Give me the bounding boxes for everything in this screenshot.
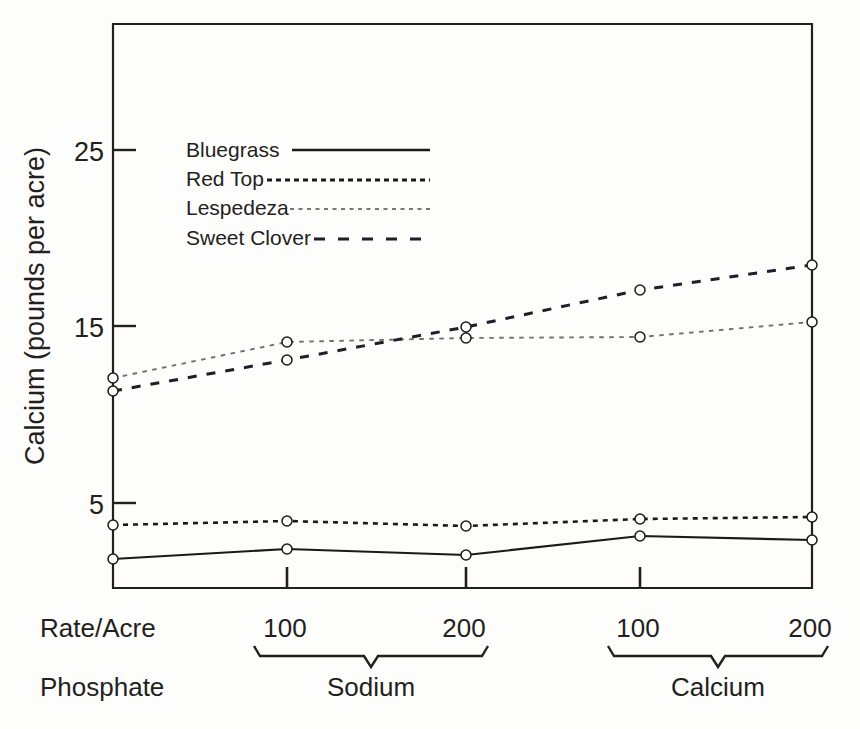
brace-sodium — [254, 646, 488, 667]
data-point — [461, 322, 471, 332]
data-point — [282, 544, 292, 554]
data-point — [108, 520, 118, 530]
data-point — [108, 373, 118, 383]
group-label-calcium: Calcium — [671, 672, 765, 702]
data-point — [108, 386, 118, 396]
y-axis-title: Calcium (pounds per acre) — [20, 147, 50, 465]
y-tick-label-5: 5 — [89, 490, 104, 520]
data-point — [635, 514, 645, 524]
chart-container: 25 15 5 Calcium (pounds per acre) — [0, 0, 860, 729]
brace-calcium — [608, 646, 828, 667]
x-axis-ticks — [287, 567, 640, 588]
series-bluegrass — [108, 531, 817, 564]
rate-value-sodium-100: 100 — [263, 613, 306, 643]
data-point — [282, 516, 292, 526]
data-point — [108, 554, 118, 564]
legend-label-lespedeza: Lespedeza — [186, 196, 289, 219]
legend-label-bluegrass: Bluegrass — [186, 138, 279, 161]
data-point — [461, 333, 471, 343]
rate-per-acre-label: Rate/Acre — [40, 613, 156, 643]
y-axis-ticks — [113, 150, 136, 503]
data-point — [461, 550, 471, 560]
data-point — [282, 337, 292, 347]
data-point — [461, 521, 471, 531]
data-point — [282, 355, 292, 365]
rate-value-calcium-100: 100 — [616, 613, 659, 643]
rate-value-calcium-200: 200 — [788, 613, 831, 643]
legend: Bluegrass Red Top Lespedeza Sweet Clover — [186, 138, 430, 249]
y-tick-label-25: 25 — [74, 137, 104, 167]
data-point — [635, 332, 645, 342]
series-sweet-clover — [108, 260, 817, 396]
data-point — [635, 285, 645, 295]
data-point — [807, 535, 817, 545]
legend-label-sweet-clover: Sweet Clover — [186, 226, 311, 249]
legend-label-red-top: Red Top — [186, 167, 264, 190]
rate-value-sodium-200: 200 — [442, 613, 485, 643]
y-tick-label-15: 15 — [74, 313, 104, 343]
data-point — [807, 260, 817, 270]
phosphate-label: Phosphate — [40, 672, 164, 702]
plot-frame — [113, 24, 812, 588]
group-label-sodium: Sodium — [327, 672, 415, 702]
series-red-top — [108, 512, 817, 531]
data-point — [635, 531, 645, 541]
data-point — [807, 317, 817, 327]
data-point — [807, 512, 817, 522]
chart-canvas: 25 15 5 Calcium (pounds per acre) — [0, 0, 860, 729]
